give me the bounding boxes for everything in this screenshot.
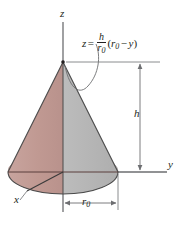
equation-close-paren: ) — [133, 37, 137, 49]
radius-label: r0 — [82, 196, 90, 209]
y-axis-label: y — [168, 159, 173, 170]
x-axis-leader — [20, 191, 27, 200]
z-axis-label: z — [60, 8, 64, 19]
radius-label-subscript: 0 — [86, 200, 90, 209]
cone-diagram-figure: z y x h r0 z=hr0(r0−y) — [0, 0, 183, 227]
equation-minus-sign: − — [119, 37, 128, 49]
x-axis-label: x — [14, 194, 19, 205]
equation-fraction: hr0 — [97, 32, 107, 56]
cone-surface-left — [8, 62, 63, 194]
cone-equation: z=hr0(r0−y) — [82, 32, 137, 56]
height-label: h — [134, 108, 140, 119]
equation-denominator: r0 — [97, 42, 107, 56]
equation-denominator-subscript: 0 — [101, 46, 105, 55]
equation-numerator: h — [97, 32, 107, 43]
apex-point — [61, 60, 65, 64]
equation-equals-sign: = — [86, 37, 95, 49]
cone-surface-right — [63, 62, 118, 194]
